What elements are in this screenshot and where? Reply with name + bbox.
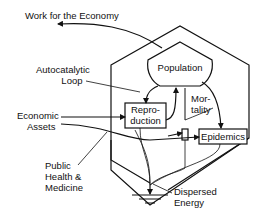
label-autocatalytic-loop: Autocatalytic Loop (36, 64, 90, 86)
label-work-for-economy: Work for the Economy (25, 10, 119, 21)
mortality-label: Mor- tality (191, 93, 211, 115)
epidemics-label: Epidemics (199, 131, 247, 142)
label-public-health: Public Health & Medicine (45, 160, 83, 193)
label-dispersed-energy: Dispersed Energy (174, 186, 217, 208)
reproduction-label: Repro- duction (125, 104, 166, 126)
label-economic-assets: Economic Assets (17, 110, 59, 132)
population-label: Population (156, 62, 204, 73)
